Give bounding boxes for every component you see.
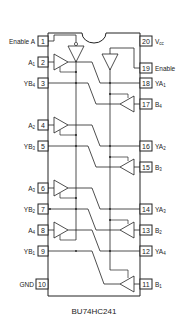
pin-3-label: YB4 — [24, 80, 36, 88]
pin-20-number: 20 — [142, 38, 150, 45]
pin-2-number: 2 — [41, 59, 45, 66]
pin-15-number: 15 — [142, 164, 150, 171]
pin-11-label: B1 — [155, 281, 162, 289]
pin-7-number: 7 — [41, 206, 45, 213]
pin-18-number: 18 — [142, 80, 150, 87]
pin-16-number: 16 — [142, 143, 150, 150]
pin-8-number: 8 — [41, 227, 45, 234]
buffer-a1 — [48, 54, 140, 83]
pin-12-number: 12 — [142, 248, 150, 255]
pin-17-label: B4 — [155, 101, 162, 109]
buffer-b4 — [48, 83, 140, 112]
pin-9-number: 9 — [41, 248, 45, 255]
buffer-a3 — [48, 180, 140, 209]
pin-5-number: 5 — [41, 143, 45, 150]
pin-6-number: 6 — [41, 185, 45, 192]
pin-4-label: A2 — [28, 122, 35, 130]
enable-b-buffer — [102, 48, 140, 70]
pin-8-label: A4 — [28, 227, 35, 235]
part-number-caption: BU74HC241 — [72, 307, 117, 316]
pin-19-label: Enable — [155, 65, 176, 72]
pin-5-label: YB3 — [24, 143, 36, 151]
pin-1-label: Enable A — [9, 38, 36, 45]
buffer-a2 — [48, 117, 140, 146]
pin-20-label: Vcc — [155, 38, 165, 46]
enable-a-inverter — [48, 35, 84, 62]
pin-4-number: 4 — [41, 122, 45, 129]
pin-19-number: 19 — [142, 65, 150, 72]
buffer-b1 — [48, 251, 140, 292]
pin-12-label: YA4 — [155, 248, 166, 256]
pin-10-label: GND — [20, 281, 35, 288]
pin-14-label: YA3 — [155, 206, 166, 214]
pin-13-number: 13 — [142, 227, 150, 234]
pin-3-number: 3 — [41, 80, 45, 87]
pin-18-label: YA1 — [155, 80, 166, 88]
pin-17-number: 17 — [142, 101, 150, 108]
pin-2-label: A1 — [28, 59, 35, 67]
pin-6-label: A3 — [28, 185, 35, 193]
pin-14-number: 14 — [142, 206, 150, 213]
pin-7-label: YB2 — [24, 206, 36, 214]
pin-9-label: YB1 — [24, 248, 36, 256]
pin-11-number: 11 — [142, 281, 149, 288]
pin-10-number: 10 — [38, 281, 46, 288]
pin-13-label: B2 — [155, 227, 162, 235]
pin-16-label: YA2 — [155, 143, 166, 151]
buffer-b3 — [48, 146, 140, 175]
pin-1-number: 1 — [41, 38, 45, 45]
ic-pinout-diagram: 1 2 3 4 5 6 7 8 9 10 20 19 18 17 16 15 1… — [0, 0, 180, 336]
pin-15-label: B3 — [155, 164, 162, 172]
